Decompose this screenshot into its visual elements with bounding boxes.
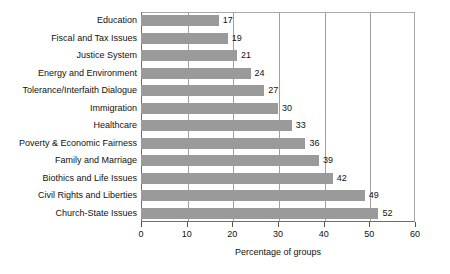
bar [141,208,378,219]
bar-row: 27 [141,82,415,100]
category-label: Civil Rights and Liberties [0,187,137,205]
x-tick-mark [141,222,142,227]
bar-value-label: 30 [282,101,292,115]
x-tick-mark [278,222,279,227]
bar-row: 17 [141,12,415,30]
x-tick-mark [187,222,188,227]
category-label: Fiscal and Tax Issues [0,30,137,48]
bar-row: 39 [141,152,415,170]
bar-row: 52 [141,205,415,223]
bar-value-label: 42 [337,171,347,185]
bar [141,68,251,79]
x-tick-label: 30 [273,228,283,240]
bar-row: 30 [141,100,415,118]
category-label: Justice System [0,47,137,65]
x-tick-label: 40 [319,228,329,240]
bar [141,15,219,26]
category-label: Energy and Environment [0,65,137,83]
bar [141,190,365,201]
bar-chart: EducationFiscal and Tax IssuesJustice Sy… [0,0,450,274]
bar-row: 24 [141,65,415,83]
category-label: Education [0,12,137,30]
bar-row: 19 [141,30,415,48]
category-label: Poverty & Economic Fairness [0,135,137,153]
category-label: Church-State Issues [0,205,137,223]
bar-value-label: 36 [309,136,319,150]
bar-value-label: 39 [323,153,333,167]
bar-value-label: 49 [369,188,379,202]
bar [141,85,264,96]
bar-value-label: 27 [268,83,278,97]
category-label: Healthcare [0,117,137,135]
bar [141,103,278,114]
bar [141,120,292,131]
bar-value-label: 17 [223,13,233,27]
bar-row: 49 [141,187,415,205]
bar-row: 42 [141,170,415,188]
x-tick-label: 10 [182,228,192,240]
x-axis-tick-labels: 0102030405060 [141,228,415,242]
bar-value-label: 21 [241,48,251,62]
x-tick-label: 20 [227,228,237,240]
bar [141,155,319,166]
x-tick-mark [369,222,370,227]
bar-row: 36 [141,135,415,153]
bar-value-label: 52 [382,206,392,220]
bar-value-label: 33 [296,118,306,132]
x-tick-label: 50 [364,228,374,240]
category-label: Biothics and Life Issues [0,170,137,188]
bars-container: 171921242730333639424952 [141,12,415,222]
bar [141,173,333,184]
bar [141,138,305,149]
x-tick-mark [415,222,416,227]
category-label: Immigration [0,100,137,118]
x-tick-label: 60 [410,228,420,240]
bar [141,33,228,44]
x-tick-mark [324,222,325,227]
x-tick-label: 0 [138,228,143,240]
bar-row: 33 [141,117,415,135]
bar-value-label: 19 [232,31,242,45]
bar-value-label: 24 [255,66,265,80]
category-label: Tolerance/Interfaith Dialogue [0,82,137,100]
bar-row: 21 [141,47,415,65]
category-axis-labels: EducationFiscal and Tax IssuesJustice Sy… [0,12,137,222]
category-label: Family and Marriage [0,152,137,170]
x-tick-mark [232,222,233,227]
bar [141,50,237,61]
x-axis-title: Percentage of groups [141,246,415,258]
